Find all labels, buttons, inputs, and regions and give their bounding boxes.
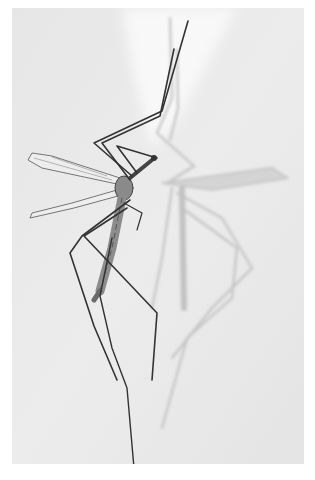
crane-fly-photo: [12, 8, 304, 464]
photo-frame: Black-and-white photograph of a crane fl…: [12, 8, 304, 464]
